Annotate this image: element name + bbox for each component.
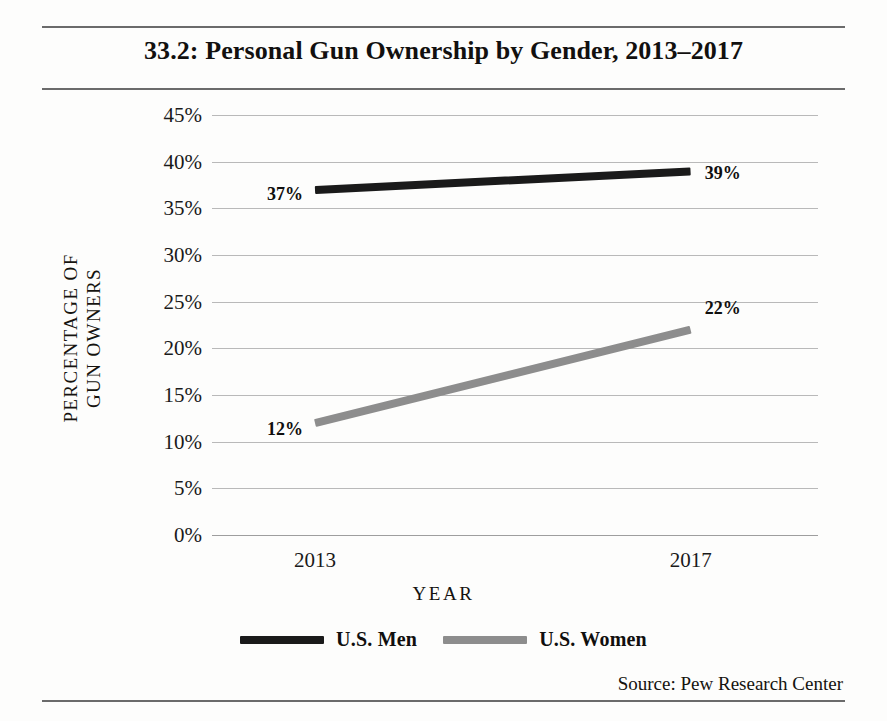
data-point-label: 22% [705,297,741,318]
series-line-u-s-men [315,167,691,194]
source-note: Source: Pew Research Center [618,673,843,695]
figure-page: 33.2: Personal Gun Ownership by Gender, … [0,0,887,721]
plot-area: 37%39%12%22% [212,115,818,535]
legend-label: U.S. Women [539,628,647,651]
data-point-label: 39% [705,163,741,184]
gridline [212,535,818,536]
gridline [212,115,818,116]
chart-title: 33.2: Personal Gun Ownership by Gender, … [0,36,887,66]
y-axis-title-line-1: PERCENTAGE OF [59,253,82,422]
y-axis-title-line-2: GUN OWNERS [82,253,105,422]
gridline [212,348,818,349]
x-axis-tick-label: 2017 [670,548,712,573]
y-axis-tick-label: 0% [130,523,202,548]
gridline [212,395,818,396]
gridline [212,208,818,209]
gridline [212,442,818,443]
chart-legend: U.S. MenU.S. Women [0,628,887,651]
series-line-u-s-women [314,326,692,427]
title-underline-rule [42,88,845,90]
gridline [212,255,818,256]
x-axis-title: YEAR [0,583,887,605]
legend-swatch [443,636,527,644]
y-axis-tick-label: 35% [130,196,202,221]
data-point-label: 37% [243,183,303,204]
y-axis-tick-label: 40% [130,149,202,174]
y-axis-title: PERCENTAGE OF GUN OWNERS [52,228,112,448]
y-axis-tick-label: 15% [130,383,202,408]
y-axis-tick-label: 45% [130,103,202,128]
bottom-rule [42,700,845,702]
y-axis-tick-label: 30% [130,243,202,268]
y-axis-tick-label: 5% [130,476,202,501]
data-point-label: 12% [243,419,303,440]
y-axis-tick-label: 10% [130,429,202,454]
gridline [212,488,818,489]
legend-item: U.S. Men [240,628,417,651]
legend-item: U.S. Women [443,628,647,651]
legend-label: U.S. Men [336,628,417,651]
x-axis-tick-label: 2013 [294,548,336,573]
y-axis-tick-label: 25% [130,289,202,314]
y-axis-tick-label: 20% [130,336,202,361]
legend-swatch [240,636,324,644]
top-rule [42,26,845,28]
